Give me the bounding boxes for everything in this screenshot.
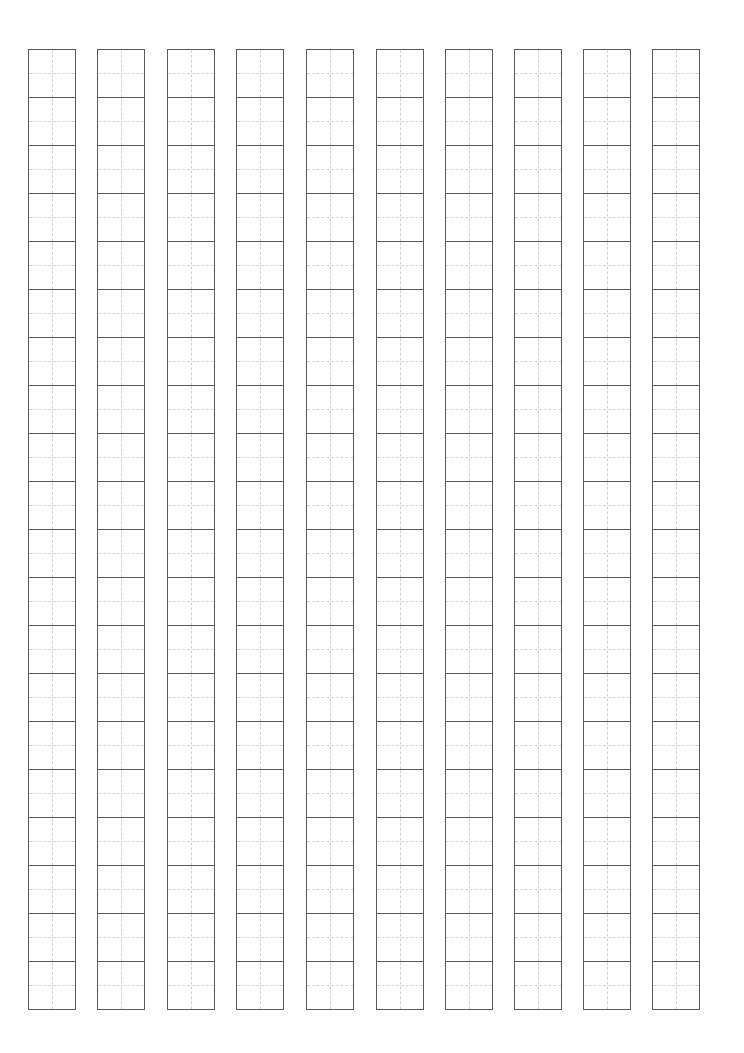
grid-cell [584,769,630,817]
grid-cell [377,529,423,577]
horizontal-guide-line [653,73,699,74]
horizontal-guide-line [584,649,630,650]
horizontal-guide-line [307,553,353,554]
grid-cell [446,961,492,1009]
grid-cell [98,817,144,865]
horizontal-guide-line [168,889,214,890]
horizontal-guide-line [377,937,423,938]
grid-cell [653,577,699,625]
horizontal-guide-line [446,409,492,410]
grid-cell [237,625,283,673]
grid-cell [377,625,423,673]
grid-cell [446,433,492,481]
horizontal-guide-line [515,457,561,458]
grid-cell [168,385,214,433]
grid-cell [377,721,423,769]
grid-cell [168,241,214,289]
grid-cell [29,97,75,145]
grid-cell [98,50,144,97]
horizontal-guide-line [653,841,699,842]
horizontal-guide-line [237,505,283,506]
horizontal-guide-line [584,937,630,938]
grid-cell [584,961,630,1009]
grid-cell [653,961,699,1009]
horizontal-guide-line [307,265,353,266]
grid-cell [377,577,423,625]
grid-cell [29,289,75,337]
grid-cell [515,961,561,1009]
grid-cell [446,625,492,673]
horizontal-guide-line [446,697,492,698]
grid-cell [98,625,144,673]
horizontal-guide-line [584,553,630,554]
grid-cell [168,193,214,241]
horizontal-guide-line [446,937,492,938]
horizontal-guide-line [168,169,214,170]
grid-cell [653,865,699,913]
horizontal-guide-line [29,265,75,266]
horizontal-guide-line [377,601,423,602]
grid-cell [584,145,630,193]
grid-cell [446,337,492,385]
horizontal-guide-line [446,457,492,458]
horizontal-guide-line [584,73,630,74]
horizontal-guide-line [446,745,492,746]
horizontal-guide-line [237,601,283,602]
grid-cell [653,241,699,289]
horizontal-guide-line [237,793,283,794]
horizontal-guide-line [168,841,214,842]
horizontal-guide-line [653,361,699,362]
grid-cell [98,385,144,433]
horizontal-guide-line [168,505,214,506]
grid-cell [29,673,75,721]
horizontal-guide-line [653,409,699,410]
horizontal-guide-line [584,745,630,746]
horizontal-guide-line [29,73,75,74]
horizontal-guide-line [377,553,423,554]
horizontal-guide-line [29,553,75,554]
grid-cell [653,337,699,385]
horizontal-guide-line [584,265,630,266]
grid-cell [307,385,353,433]
grid-cell [446,193,492,241]
horizontal-guide-line [653,697,699,698]
grid-cell [307,145,353,193]
horizontal-guide-line [446,361,492,362]
horizontal-guide-line [377,745,423,746]
grid-cell [237,50,283,97]
grid-cell [653,433,699,481]
grid-cell [307,97,353,145]
grid-cell [307,673,353,721]
horizontal-guide-line [515,121,561,122]
grid-column-8 [514,49,562,1010]
grid-cell [168,913,214,961]
horizontal-guide-line [446,985,492,986]
grid-cell [29,577,75,625]
horizontal-guide-line [377,265,423,266]
grid-cell [446,577,492,625]
grid-cell [29,865,75,913]
horizontal-guide-line [515,73,561,74]
grid-cell [307,913,353,961]
horizontal-guide-line [237,745,283,746]
horizontal-guide-line [29,889,75,890]
grid-cell [377,97,423,145]
horizontal-guide-line [168,985,214,986]
horizontal-guide-line [377,169,423,170]
grid-cell [98,913,144,961]
horizontal-guide-line [237,169,283,170]
grid-cell [168,817,214,865]
grid-cell [168,961,214,1009]
grid-cell [237,817,283,865]
grid-cell [29,961,75,1009]
horizontal-guide-line [168,601,214,602]
horizontal-guide-line [446,889,492,890]
horizontal-guide-line [446,793,492,794]
horizontal-guide-line [515,553,561,554]
grid-column-1 [28,49,76,1010]
horizontal-guide-line [307,985,353,986]
grid-cell [237,673,283,721]
grid-cell [584,289,630,337]
horizontal-guide-line [446,313,492,314]
horizontal-guide-line [237,265,283,266]
